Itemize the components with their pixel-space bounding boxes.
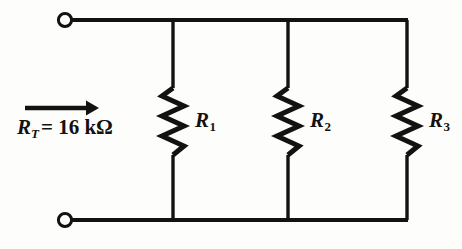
resistor-3-subscript: 3	[444, 119, 451, 134]
rt-value: = 16 kΩ	[41, 115, 113, 139]
resistor-3-symbol: R	[429, 108, 443, 132]
resistor-1-zigzag	[162, 88, 184, 155]
rt-symbol: R	[17, 115, 31, 139]
resistor-2-subscript: 2	[325, 119, 332, 134]
resistor-3-label: R3	[429, 110, 450, 133]
resistor-2-label: R2	[310, 110, 331, 133]
resistor-2-zigzag	[277, 88, 299, 155]
circuit-diagram-canvas: RT= 16 kΩ R1 R2 R3	[0, 0, 462, 249]
top-terminal-circle-icon	[58, 13, 71, 26]
resistor-1-subscript: 1	[210, 119, 217, 134]
resistor-3-zigzag	[396, 88, 418, 155]
total-resistance-label: RT= 16 kΩ	[17, 117, 113, 140]
resistor-2-symbol: R	[310, 108, 324, 132]
rt-subscript: T	[31, 126, 39, 141]
right-arrow-icon	[25, 101, 99, 116]
resistor-1-label: R1	[195, 110, 216, 133]
resistor-1-symbol: R	[195, 108, 209, 132]
bottom-terminal-circle-icon	[58, 213, 71, 226]
